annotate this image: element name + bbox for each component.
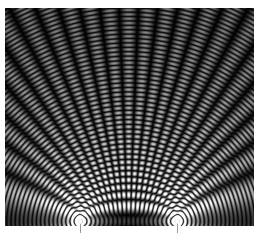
source-tick-left <box>80 224 81 233</box>
figure-container <box>0 0 261 236</box>
source-tick-right <box>177 224 178 233</box>
interference-plot-area <box>5 8 254 226</box>
wave-interference-heatmap <box>5 8 254 226</box>
